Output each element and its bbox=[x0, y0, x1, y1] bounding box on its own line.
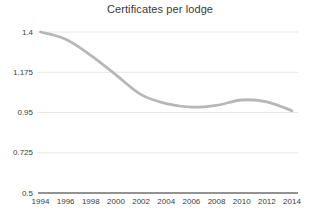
x-tick-label: 2006 bbox=[183, 197, 201, 206]
x-tick-label: 2008 bbox=[208, 197, 226, 206]
x-tick-label: 1996 bbox=[57, 197, 75, 206]
y-tick-label: 1.4 bbox=[22, 28, 34, 37]
x-tick-label: 2002 bbox=[132, 197, 150, 206]
data-line bbox=[41, 32, 293, 111]
x-tick-label: 1994 bbox=[32, 197, 50, 206]
y-tick-label: 0.95 bbox=[17, 108, 33, 117]
x-tick-label: 2004 bbox=[157, 197, 175, 206]
x-tick-label: 2000 bbox=[107, 197, 125, 206]
y-tick-label: 0.725 bbox=[13, 148, 34, 157]
plot-area: 1.41.1750.950.7250.5 1994199619982000200… bbox=[0, 0, 320, 220]
y-axis-tick-labels: 1.41.1750.950.7250.5 bbox=[13, 28, 34, 198]
gridlines bbox=[38, 32, 298, 153]
x-tick-label: 2012 bbox=[258, 197, 276, 206]
x-tick-label: 2014 bbox=[283, 197, 301, 206]
x-axis-tick-labels: 1994199619982000200220042006200820102012… bbox=[32, 197, 302, 206]
x-tick-label: 1998 bbox=[82, 197, 100, 206]
line-chart: Certificates per lodge 1.41.1750.950.725… bbox=[0, 0, 320, 220]
y-tick-label: 1.175 bbox=[13, 68, 34, 77]
x-tick-label: 2010 bbox=[233, 197, 251, 206]
